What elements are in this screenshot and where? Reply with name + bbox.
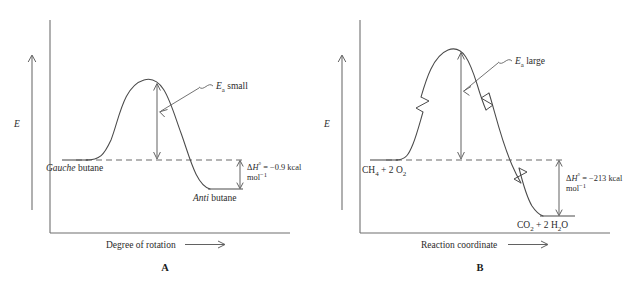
panel-b-activation-arrow xyxy=(458,53,465,160)
panel-a-product-roman: butane xyxy=(209,193,237,203)
panel-b-enthalpy-label: ΔH° = −213 kcal xyxy=(566,172,623,183)
panel-a-activation-arrow xyxy=(154,84,161,160)
panel-b-curve-descend-upper xyxy=(489,93,521,183)
panel-a-y-axis-label: E xyxy=(13,119,20,129)
panel-b-letter: B xyxy=(476,262,483,273)
panel-b-ea-leader xyxy=(463,60,512,96)
panel-a: E Ea small Gauche butane xyxy=(13,20,302,273)
panel-b: E xyxy=(323,20,623,273)
panel-a-reactant-roman: butane xyxy=(76,163,104,173)
panel-b-reactant-label: CH4 + 2 O2 xyxy=(362,165,407,178)
panel-b-enthalpy-value: = −213 kcal xyxy=(580,174,623,183)
panel-a-product-label: Anti butane xyxy=(192,193,237,203)
panel-a-enthalpy-units-exp: −1 xyxy=(260,171,267,178)
panel-b-curve-descend-lower xyxy=(519,168,543,216)
panel-b-energy-arrow xyxy=(338,55,346,210)
panel-b-activation-label: Ea large xyxy=(514,56,545,68)
panel-b-product-label: CO2 + 2 H2O xyxy=(517,220,568,233)
panel-b-break-mark-1 xyxy=(416,97,429,112)
panel-b-x-axis-label: Reaction coordinate xyxy=(421,240,497,250)
panel-a-ea-leader xyxy=(160,85,213,117)
panel-b-enthalpy-arrow xyxy=(556,160,562,215)
panel-b-enthalpy-units: mol−1 xyxy=(566,182,586,193)
panel-a-energy-arrow xyxy=(28,55,36,210)
panel-a-product-italic: Anti xyxy=(192,193,209,203)
panel-b-enthalpy-units-base: mol xyxy=(566,184,580,193)
panel-b-enthalpy-units-exp: −1 xyxy=(579,182,586,189)
panel-a-energy-curve xyxy=(86,79,210,189)
panel-a-enthalpy-units: mol−1 xyxy=(247,171,267,182)
panel-a-enthalpy-label: ΔH° = −0.9 kcal xyxy=(247,161,302,172)
panel-b-curve-ascend-lower xyxy=(396,112,423,160)
panel-a-reactant-label: Gauche butane xyxy=(46,163,103,173)
panel-a-x-axis-label: Degree of rotation xyxy=(106,240,176,250)
panel-a-letter: A xyxy=(161,262,169,273)
energy-diagram-figure: E Ea small Gauche butane xyxy=(0,0,639,289)
panel-a-enthalpy-value: = −0.9 kcal xyxy=(261,163,302,172)
panel-a-activation-text: small xyxy=(225,81,248,91)
panel-b-y-axis-label: E xyxy=(323,119,330,129)
panel-a-x-axis-arrow xyxy=(185,241,225,248)
panel-b-curve-peak xyxy=(421,49,486,110)
panel-a-enthalpy-units-base: mol xyxy=(247,173,261,182)
panel-a-activation-label: Ea small xyxy=(215,81,248,93)
panel-b-x-axis-arrow xyxy=(508,241,548,248)
panel-a-enthalpy-arrow xyxy=(237,160,243,188)
panel-b-activation-text: large xyxy=(524,56,545,66)
panel-a-reactant-italic: Gauche xyxy=(46,163,76,173)
